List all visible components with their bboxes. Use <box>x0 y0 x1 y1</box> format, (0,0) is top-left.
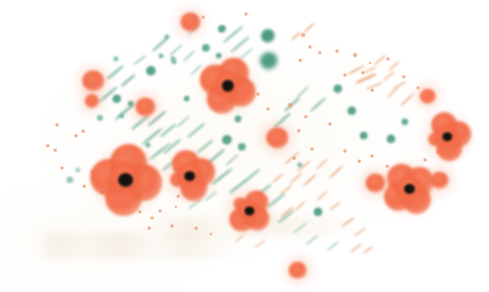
orange-speck <box>82 184 86 188</box>
foliage-dot <box>333 84 342 93</box>
foliage-dot <box>112 94 121 103</box>
foliage-dash <box>160 123 177 138</box>
orange-speck <box>176 194 180 198</box>
orange-speck <box>343 149 347 153</box>
poppy-halo <box>172 4 209 41</box>
orange-speck <box>288 103 293 108</box>
orange-speck <box>55 123 59 127</box>
poppy-body <box>238 200 261 223</box>
foliage-dash <box>98 85 118 103</box>
orange-speck <box>368 61 371 64</box>
foliage-dash <box>284 96 301 111</box>
poppy-petal <box>266 128 288 149</box>
foliage-dot <box>171 57 176 62</box>
foliage-dash <box>182 50 195 63</box>
foliage-dot <box>261 29 275 43</box>
poppy-center-large <box>89 143 163 217</box>
foliage-dash <box>189 64 202 77</box>
poppy-petal <box>90 159 127 196</box>
foliage-dash <box>141 126 163 145</box>
orange-dash <box>303 22 315 33</box>
foliage-dot <box>119 113 124 118</box>
foliage-dot <box>128 101 134 107</box>
foliage-dash <box>152 36 169 51</box>
orange-speck <box>244 12 248 16</box>
orange-dash <box>329 201 341 211</box>
ghost-print-band-upper <box>150 216 360 236</box>
poppy-petal <box>420 88 436 103</box>
orange-speck <box>60 166 64 170</box>
orange-speck <box>74 134 78 138</box>
poppy-body <box>214 72 242 100</box>
poppy-petal <box>431 171 449 188</box>
poppy-halo <box>89 143 163 217</box>
orange-dash <box>373 54 387 66</box>
foliage-dot <box>222 135 232 145</box>
poppy-bud-top <box>172 4 209 41</box>
orange-dash <box>387 85 400 98</box>
foliage-dash <box>120 73 135 87</box>
orange-speck <box>46 144 50 148</box>
poppy-halo <box>161 147 219 205</box>
orange-dash <box>289 172 302 184</box>
poppy-halo <box>197 55 259 117</box>
orange-dash <box>280 206 294 218</box>
orange-dash <box>341 216 355 227</box>
orange-speck <box>436 150 440 154</box>
foliage-dot <box>297 162 302 167</box>
foliage-dash <box>230 35 250 53</box>
orange-speck <box>147 226 151 230</box>
poppy-petal <box>405 167 434 196</box>
poppy-upper-center <box>197 55 259 117</box>
poppy-petal <box>188 158 215 185</box>
orange-dash <box>393 81 406 90</box>
foliage-dash <box>225 153 240 167</box>
poppy-center <box>222 80 234 92</box>
poppy-right-upper <box>419 109 474 164</box>
poppy-bud-mid-right <box>257 118 296 157</box>
foliage-dash <box>147 109 167 127</box>
orange-speck <box>298 58 302 62</box>
foliage-dash <box>296 85 311 99</box>
poppy-center <box>118 173 133 187</box>
foliage-dash <box>169 43 184 57</box>
poppy-petal <box>82 71 104 92</box>
poppy-petal <box>387 164 416 193</box>
orange-dash <box>294 201 306 212</box>
poppy-center-mid <box>161 147 219 205</box>
orange-speck <box>297 129 301 133</box>
poppy-petal <box>180 174 207 201</box>
orange-dash <box>284 151 301 166</box>
orange-dash <box>347 64 366 76</box>
foliage-dot <box>184 96 190 102</box>
poppy-halo <box>379 159 439 219</box>
foliage-dash <box>267 192 286 208</box>
poppy-bud-left-upper <box>73 61 112 100</box>
paper-background <box>0 0 489 292</box>
orange-dash <box>316 191 328 202</box>
foliage-dash <box>277 209 294 223</box>
orange-speck <box>370 154 374 158</box>
poppy-halo <box>77 86 107 116</box>
orange-speck <box>328 122 332 126</box>
poppy-petal <box>85 94 99 107</box>
orange-dash <box>315 158 328 171</box>
foliage-dash <box>222 24 244 43</box>
foliage-dot <box>401 118 408 125</box>
orange-speck <box>90 170 94 174</box>
poppy-halo <box>222 184 275 237</box>
orange-dash <box>365 82 383 91</box>
poppy-bud-right-far <box>412 80 444 112</box>
poppy-halo <box>257 118 296 157</box>
foliage-dash <box>131 114 150 130</box>
foliage-dash <box>305 234 319 246</box>
poppy-bud-left-mid <box>127 89 164 126</box>
foliage-dot <box>146 66 156 76</box>
poppy-bud-right-pair-b <box>423 163 458 198</box>
foliage-dot <box>202 44 210 52</box>
foliage-dot <box>387 135 396 144</box>
foliage-dot <box>260 52 278 70</box>
orange-speck <box>402 75 406 79</box>
orange-speck <box>353 53 358 58</box>
orange-dash <box>363 66 376 74</box>
